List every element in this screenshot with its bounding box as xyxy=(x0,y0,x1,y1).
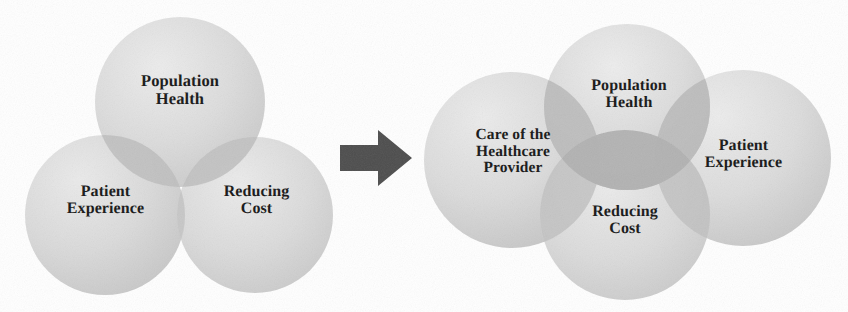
label-patient-experience: Patient Experience xyxy=(672,137,815,172)
figure-canvas: Population Health Patient Experience Red… xyxy=(0,0,848,312)
label-reducing-cost: Reducing Cost xyxy=(190,183,323,218)
label-patient-experience: Patient Experience xyxy=(33,183,178,218)
transition-arrow xyxy=(338,128,414,188)
right-arrow-icon xyxy=(338,128,414,188)
triple-aim-venn-shapes xyxy=(0,0,340,312)
quadruple-aim-diagram: Population Health Care of the Healthcare… xyxy=(414,0,848,312)
label-population-health: Population Health xyxy=(110,72,250,108)
label-care-of-the-healthcare-provider: Care of the Healthcare Provider xyxy=(437,127,589,177)
label-reducing-cost: Reducing Cost xyxy=(555,203,695,238)
label-population-health: Population Health xyxy=(559,77,699,112)
triple-aim-diagram: Population Health Patient Experience Red… xyxy=(0,0,340,312)
